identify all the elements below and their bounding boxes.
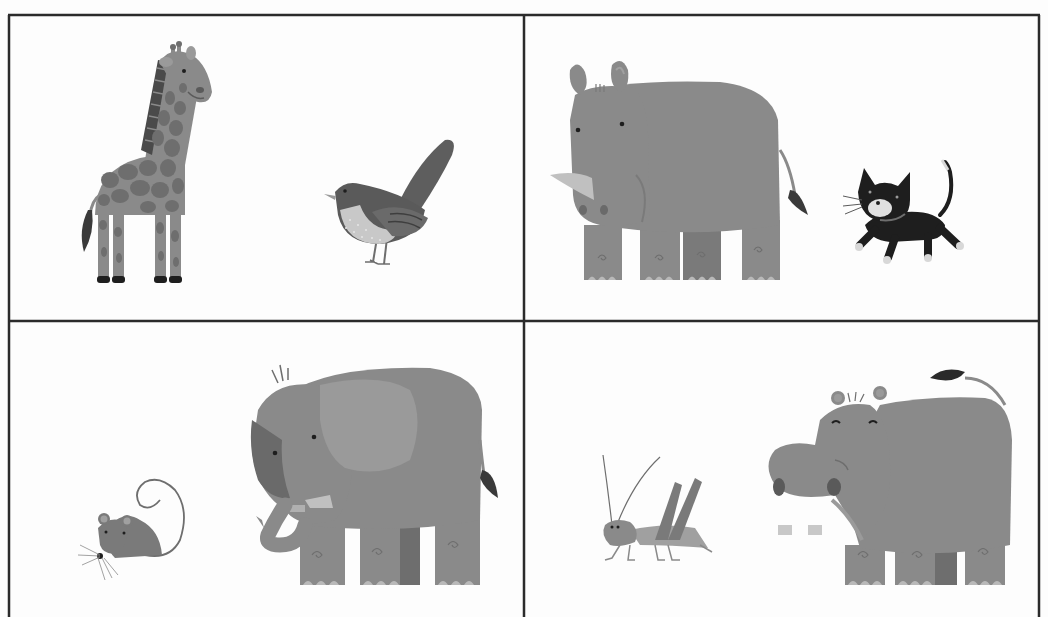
giraffe-nostril <box>196 87 204 93</box>
giraffe-hoof <box>154 276 167 283</box>
giraffe-leg <box>98 205 109 280</box>
cat-eye <box>896 196 899 199</box>
grasshopper-eye <box>611 526 614 529</box>
giraffe-eye <box>182 69 186 73</box>
rhino-nostril <box>600 205 608 215</box>
elephant-leg <box>400 520 420 585</box>
hippo-nostril <box>827 478 841 496</box>
cat-muzzle <box>868 199 892 217</box>
elephant-ear <box>320 380 418 472</box>
elephant-eye <box>312 435 317 440</box>
hippo-tooth <box>778 525 792 535</box>
rhino-head <box>570 86 650 225</box>
bird-eye <box>343 189 347 193</box>
giraffe-ear <box>186 46 196 60</box>
rhino-nostril <box>579 205 587 215</box>
rhino-eye <box>620 122 625 127</box>
grasshopper-eye <box>617 526 620 529</box>
giraffe-leg <box>113 205 124 280</box>
giraffe-hoof <box>169 276 182 283</box>
rhino-eye <box>576 128 581 133</box>
giraffe-ear <box>159 57 173 67</box>
cat-eye <box>869 191 872 194</box>
hippo-leg <box>845 545 885 585</box>
hippo-tooth <box>808 525 822 535</box>
mouse-eye <box>123 532 126 535</box>
animal-grid <box>0 0 1048 617</box>
hippo-nostril <box>773 478 785 496</box>
cat-nose <box>876 201 880 205</box>
elephant-leg <box>360 520 405 585</box>
giraffe-hoof <box>112 276 125 283</box>
rhino-leg <box>584 225 622 280</box>
grasshopper-head <box>603 520 636 546</box>
elephant-eye <box>273 451 278 456</box>
rhino-leg <box>640 225 680 280</box>
mouse-eye <box>105 531 108 534</box>
giraffe-hoof <box>97 276 110 283</box>
